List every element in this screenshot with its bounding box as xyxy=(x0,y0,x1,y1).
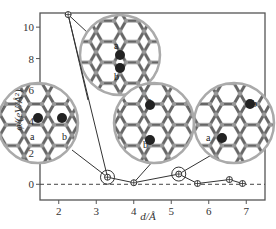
label-a: a xyxy=(206,132,211,143)
data-point xyxy=(226,177,232,183)
x-tick-label: 7 xyxy=(244,205,250,217)
structure-inset-right: a b xyxy=(194,83,274,163)
leader-line xyxy=(68,15,88,33)
label-a: a xyxy=(147,95,152,106)
label-b: b xyxy=(252,98,257,109)
x-tick-label: 6 xyxy=(206,205,212,217)
y-tick-label: 4 xyxy=(29,115,35,127)
x-tick-label: 3 xyxy=(94,205,100,217)
y-tick-label: 6 xyxy=(29,84,35,96)
data-point xyxy=(131,180,137,186)
defect-atom-a xyxy=(115,50,125,60)
y-axis-label: φ/(eV/Å²) xyxy=(12,89,25,130)
y-tick-label: 2 xyxy=(29,147,35,159)
x-tick-label: 2 xyxy=(56,205,62,217)
structure-inset-middle: a b xyxy=(114,83,194,163)
label-b: b xyxy=(62,131,67,142)
y-tick-label: 10 xyxy=(23,21,35,33)
y-tick-label: 8 xyxy=(29,53,35,65)
x-tick-label: 4 xyxy=(131,205,137,217)
label-a: a xyxy=(114,40,119,51)
data-point xyxy=(240,181,246,187)
y-tick-label: 0 xyxy=(29,178,35,190)
data-point xyxy=(195,181,201,187)
data-point xyxy=(176,171,182,177)
x-axis-label: d/Å xyxy=(140,210,156,222)
label-b: b xyxy=(143,139,148,150)
label-b: b xyxy=(114,71,119,82)
data-point xyxy=(105,174,111,180)
data-point xyxy=(65,12,71,18)
x-tick-label: 5 xyxy=(169,205,175,217)
label-a: a xyxy=(30,131,35,142)
chart: a b a b a b a b 2345670246810 d xyxy=(0,0,276,229)
